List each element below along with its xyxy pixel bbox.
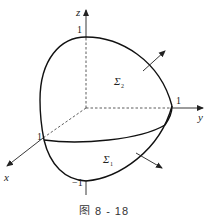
normal-lower — [136, 153, 162, 168]
x-axis-label: x — [3, 171, 9, 183]
tick-y-right: 1 — [176, 95, 181, 106]
surface-diagram: z y x 1 1 1 −1 Σ 2 Σ 1 — [0, 0, 208, 215]
hidden-axes — [43, 38, 172, 138]
figure-caption: 图 8 - 18 — [0, 202, 208, 215]
tick-x-front: 1 — [37, 131, 42, 142]
svg-text:Σ: Σ — [102, 153, 110, 165]
z-axis-label: z — [75, 6, 81, 18]
x-axis — [7, 138, 43, 166]
lower-arc-right — [86, 106, 172, 181]
svg-text:Σ: Σ — [113, 75, 121, 87]
surface-label-sigma2: Σ 2 — [113, 75, 124, 89]
axes — [7, 10, 203, 195]
lower-arc-left — [44, 140, 86, 181]
tick-z-top: 1 — [77, 24, 82, 35]
surface-label-sigma1: Σ 1 — [102, 153, 113, 167]
upper-arc — [86, 37, 172, 106]
y-axis-label: y — [197, 111, 203, 123]
svg-text:2: 2 — [121, 83, 124, 89]
left-arc — [40, 37, 86, 140]
svg-text:1: 1 — [110, 161, 113, 167]
normal-vectors — [136, 51, 165, 168]
tick-z-bottom: −1 — [72, 177, 83, 188]
